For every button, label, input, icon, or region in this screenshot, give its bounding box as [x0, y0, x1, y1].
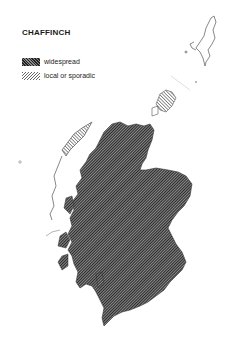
shetland-islands [185, 16, 216, 66]
orkney-islands [152, 90, 176, 116]
mainland-widespread [68, 122, 192, 326]
scotland-map [0, 0, 232, 346]
